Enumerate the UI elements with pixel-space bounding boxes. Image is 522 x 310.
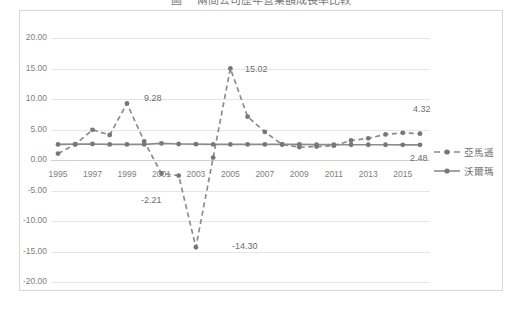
data-label: -2.21 (141, 195, 162, 205)
data-point (159, 141, 164, 146)
legend-label-walmart: 沃爾瑪 (464, 164, 494, 178)
chart-frame: 20.0015.0010.005.000.00-5.00-10.00-15.00… (19, 10, 503, 291)
data-point (349, 138, 354, 143)
series-lines (20, 11, 504, 292)
data-point (125, 101, 130, 106)
data-point (400, 142, 405, 147)
data-point (194, 142, 199, 147)
data-point (262, 130, 267, 135)
chart-legend: 亞馬遜 沃爾瑪 (434, 142, 500, 180)
series-line (58, 68, 420, 247)
data-point (245, 114, 250, 119)
data-point (194, 245, 199, 250)
data-point (107, 142, 112, 147)
data-label: 2.48 (410, 153, 428, 163)
plot-area: 20.0015.0010.005.000.00-5.00-10.00-15.00… (20, 11, 504, 292)
data-point (211, 155, 216, 160)
data-point (245, 142, 250, 147)
legend-label-amazon: 亞馬遜 (464, 145, 494, 159)
data-point (349, 142, 354, 147)
data-point (125, 142, 130, 147)
data-label: 4.32 (413, 104, 431, 114)
data-point (383, 132, 388, 137)
data-point (418, 142, 423, 147)
chart-title-clipped: 圖一 兩間公司歷年營業額成長率比較 (0, 0, 522, 9)
data-point (90, 127, 95, 132)
data-point (366, 136, 371, 141)
data-point (73, 142, 78, 147)
data-point (400, 130, 405, 135)
data-point (383, 142, 388, 147)
data-point (314, 142, 319, 147)
data-point (297, 142, 302, 147)
data-point (228, 142, 233, 147)
legend-item-amazon[interactable]: 亞馬遜 (434, 142, 500, 161)
data-point (142, 142, 147, 147)
data-point (159, 171, 164, 176)
data-point (228, 66, 233, 71)
data-point (280, 142, 285, 147)
data-point (418, 131, 423, 136)
series-line (58, 143, 420, 144)
legend-swatch-solid-icon (434, 166, 460, 176)
data-label: 9.28 (144, 93, 162, 103)
data-point (176, 173, 181, 178)
data-point (56, 151, 61, 156)
data-point (176, 142, 181, 147)
chart-screenshot: 圖一 兩間公司歷年營業額成長率比較 20.0015.0010.005.000.0… (0, 0, 522, 310)
data-point (107, 133, 112, 138)
data-point (331, 142, 336, 147)
data-point (56, 142, 61, 147)
data-point (211, 142, 216, 147)
page-title: 圖一 兩間公司歷年營業額成長率比較 (0, 0, 522, 7)
data-label: 15.02 (245, 64, 268, 74)
legend-item-walmart[interactable]: 沃爾瑪 (434, 161, 500, 180)
data-point (90, 142, 95, 147)
legend-swatch-dashed-icon (434, 147, 460, 157)
data-label: -14.30 (232, 241, 258, 251)
data-point (262, 142, 267, 147)
data-point (366, 142, 371, 147)
